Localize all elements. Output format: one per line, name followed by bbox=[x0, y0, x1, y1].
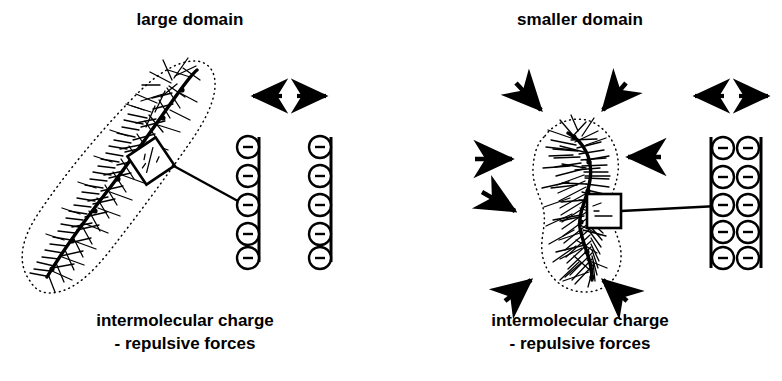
large-domain-leader-line bbox=[172, 165, 247, 206]
caption-line-2: - repulsive forces bbox=[420, 333, 740, 356]
panel-caption-large-domain: intermolecular charge - repulsive forces bbox=[25, 310, 345, 356]
large-domain-panel bbox=[22, 58, 331, 293]
compression-arrow-top-right bbox=[603, 83, 626, 110]
smaller-domain-charge-columns bbox=[711, 137, 761, 269]
panel-caption-smaller-domain: intermolecular charge - repulsive forces bbox=[420, 310, 740, 356]
caption-line-1: intermolecular charge bbox=[420, 310, 740, 333]
compression-arrow-lower-left bbox=[482, 192, 515, 211]
large-domain-charge-column-2 bbox=[309, 136, 331, 269]
large-domain-backbone bbox=[47, 70, 197, 277]
compression-arrow-bottom-left bbox=[505, 280, 531, 301]
large-domain-callout-box bbox=[127, 137, 174, 184]
smaller-domain-callout-box bbox=[587, 194, 621, 228]
polyelectrolyte-domain-figure: large domain smaller domain bbox=[0, 0, 782, 381]
large-domain-side-chains bbox=[30, 58, 200, 292]
compression-arrow-bottom-right bbox=[603, 280, 627, 301]
smaller-domain-panel bbox=[475, 83, 768, 301]
caption-line-2: - repulsive forces bbox=[25, 333, 345, 356]
large-domain-charge-column-1 bbox=[237, 136, 259, 269]
smaller-domain-leader-line bbox=[621, 206, 718, 211]
caption-line-1: intermolecular charge bbox=[25, 310, 345, 333]
compression-arrow-top-left bbox=[516, 83, 541, 110]
